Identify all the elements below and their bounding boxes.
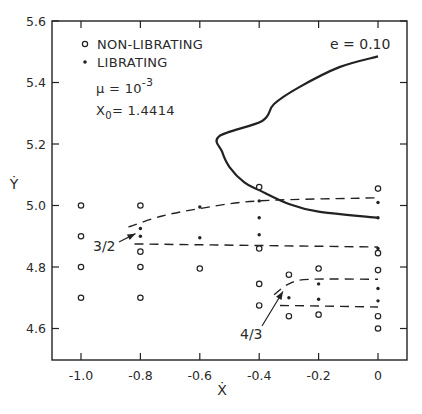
y-tick-label: 5.0 bbox=[26, 198, 46, 213]
x-tick-label: -0.4 bbox=[247, 368, 271, 383]
non-librating-point bbox=[257, 303, 262, 308]
non-librating-point bbox=[257, 184, 262, 189]
librating-point bbox=[376, 247, 379, 250]
non-librating-point bbox=[257, 281, 262, 286]
non-librating-point bbox=[375, 250, 380, 255]
non-librating-point bbox=[138, 249, 143, 254]
x0-param-label: X0= 1.4414 bbox=[96, 103, 175, 121]
non-librating-point bbox=[78, 234, 83, 239]
librating-point bbox=[376, 201, 379, 204]
mu-exponent: -3 bbox=[142, 76, 154, 89]
non-librating-point bbox=[257, 246, 262, 251]
legend-nonlibrating-label: NON-LIBRATING bbox=[97, 37, 203, 52]
non-librating-point bbox=[375, 267, 380, 272]
y-tick-label: 4.6 bbox=[26, 321, 46, 336]
resonance-chart: -1.0-0.8-0.6-0.4-0.204.64.85.05.25.45.6 … bbox=[0, 0, 422, 414]
non-librating-point bbox=[316, 266, 321, 271]
y-axis-label: Ẏ bbox=[9, 175, 19, 192]
y-tick-label: 5.2 bbox=[26, 137, 46, 152]
resonance-boundary-curve bbox=[274, 279, 378, 295]
mu-param-label: μ = 10-3 bbox=[96, 76, 153, 96]
non-librating-point bbox=[375, 314, 380, 319]
resonance-label-4-3: 4/3 bbox=[240, 326, 263, 342]
librating-point bbox=[258, 216, 261, 219]
librating-point bbox=[258, 199, 261, 202]
librating-point bbox=[317, 298, 320, 301]
librating-point bbox=[376, 287, 379, 290]
resonance-label-3-2: 3/2 bbox=[93, 238, 116, 254]
non-librating-point bbox=[138, 264, 143, 269]
x-tick-label: -0.2 bbox=[306, 368, 330, 383]
librating-point bbox=[258, 233, 261, 236]
librating-point bbox=[198, 236, 201, 239]
x-tick-label: -1.0 bbox=[69, 368, 93, 383]
librating-point bbox=[139, 227, 142, 230]
resonance-boundary-curve bbox=[134, 244, 378, 247]
non-librating-point bbox=[78, 295, 83, 300]
curve-label-e: e = 0.10 bbox=[330, 36, 390, 52]
filled-dot-icon bbox=[83, 60, 87, 64]
resonance-boundary-curve bbox=[129, 198, 378, 227]
librating-point bbox=[317, 282, 320, 285]
x-axis-label: Ẋ bbox=[217, 381, 227, 398]
curves-layer bbox=[119, 56, 378, 326]
y-tick-label: 4.8 bbox=[26, 260, 46, 275]
non-librating-point bbox=[197, 266, 202, 271]
plot-frame bbox=[52, 21, 407, 360]
open-circle-icon bbox=[82, 41, 87, 46]
legend: NON-LIBRATING LIBRATING μ = 10-3 X0= 1.4… bbox=[82, 37, 203, 121]
librating-point bbox=[139, 235, 142, 238]
non-librating-point bbox=[375, 186, 380, 191]
eccentricity-curve bbox=[216, 56, 378, 217]
non-librating-point bbox=[78, 203, 83, 208]
arrowhead-icon bbox=[127, 234, 136, 240]
librating-point bbox=[287, 296, 290, 299]
x-tick-label: 0 bbox=[374, 368, 382, 383]
points-layer bbox=[78, 184, 380, 331]
x0-value: = 1.4414 bbox=[112, 103, 175, 118]
legend-librating-label: LIBRATING bbox=[97, 55, 168, 70]
non-librating-point bbox=[375, 326, 380, 331]
x-tick-label: -0.8 bbox=[128, 368, 152, 383]
non-librating-point bbox=[286, 272, 291, 277]
y-tick-label: 5.6 bbox=[26, 14, 46, 29]
non-librating-point bbox=[316, 312, 321, 317]
x0-prefix: X bbox=[96, 103, 105, 118]
resonance-boundary-curve bbox=[280, 305, 378, 307]
non-librating-point bbox=[138, 295, 143, 300]
y-tick-label: 5.4 bbox=[26, 75, 46, 90]
librating-point bbox=[198, 205, 201, 208]
plot-axes: -1.0-0.8-0.6-0.4-0.204.64.85.05.25.45.6 bbox=[26, 14, 407, 384]
x0-subscript: 0 bbox=[105, 110, 112, 121]
mu-prefix: μ = 10 bbox=[96, 81, 142, 96]
non-librating-point bbox=[286, 314, 291, 319]
librating-point bbox=[376, 299, 379, 302]
x-tick-label: -0.6 bbox=[188, 368, 212, 383]
non-librating-point bbox=[138, 203, 143, 208]
librating-point bbox=[376, 216, 379, 219]
non-librating-point bbox=[78, 264, 83, 269]
